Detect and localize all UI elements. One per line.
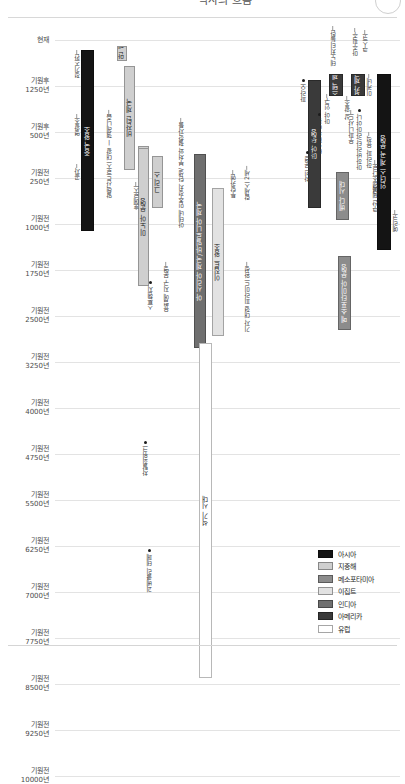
timeline-bar-label: 이집트 왕조 xyxy=(215,243,222,281)
event-annotation-label: 마추픽추 xyxy=(352,32,358,56)
timeline-bar[interactable]: 중국 왕조 xyxy=(81,50,94,231)
event-annotation-label: 람세스 2세 xyxy=(244,170,250,200)
event-dot-marker xyxy=(144,441,147,444)
timeline-bar[interactable]: 미노아 문명 xyxy=(138,148,149,286)
event-annotation-label: 차빈 문명 xyxy=(304,156,310,182)
event-annotation-label: 쿠스코 xyxy=(362,34,368,52)
timeline-bar[interactable]: 잉카 제국 xyxy=(351,74,365,96)
timeline-bar[interactable]: 비잔틴 제국 xyxy=(124,66,135,170)
gridline xyxy=(55,776,400,777)
legend-item[interactable]: 지중해 xyxy=(318,561,400,572)
legend-color-swatch xyxy=(318,612,333,620)
timeline-bar[interactable]: 오스만 제국 xyxy=(117,46,127,61)
circle-badge-icon xyxy=(375,0,401,14)
legend-color-swatch xyxy=(318,600,333,608)
y-axis-tick-label: 기원전6250년 xyxy=(0,537,49,554)
gridline xyxy=(55,684,400,685)
legend-color-swatch xyxy=(318,562,333,570)
y-axis-tick-label: 기원전7750년 xyxy=(0,629,49,646)
timeline-bar[interactable]: 아시리아 제국/바빌로니아 제국 xyxy=(194,154,206,348)
legend-item[interactable]: 이집트 xyxy=(318,586,400,597)
event-annotation-label: 투탕카멘 xyxy=(230,174,236,198)
event-dot-marker xyxy=(149,281,152,284)
legend-item-label: 인디아 xyxy=(338,599,356,609)
event-dot-marker xyxy=(318,113,321,116)
legend-color-swatch xyxy=(318,625,333,633)
timeline-bar-label: 아시리아 제국/바빌로니아 제국 xyxy=(197,201,204,300)
timeline-bar[interactable]: 그리스 xyxy=(152,156,163,208)
y-axis-tick-label: 기원전4750년 xyxy=(0,445,49,462)
gridline xyxy=(55,408,400,409)
legend-item-label: 이집트 xyxy=(338,586,356,596)
y-axis-tick-label: 기원전8500년 xyxy=(0,675,49,692)
y-axis-tick-label: 기원후1250년 xyxy=(0,77,49,94)
legend-item-label: 유럽 xyxy=(338,624,350,634)
event-annotation-label: 테오티우아칸 xyxy=(316,118,322,154)
gridline xyxy=(55,546,400,547)
legend-item-label: 메소포타미아 xyxy=(338,574,374,584)
event-annotation-label: 마야 인구 xyxy=(324,98,330,124)
gridline xyxy=(55,362,400,363)
timeline-bar-label: 비잔틴 제국 xyxy=(126,99,133,137)
timeline-bar[interactable]: 베다 시대 xyxy=(336,172,349,220)
chart-legend: 아시아지중해메소포타미아이집트인디아아메리카유럽 xyxy=(318,548,400,636)
event-annotation-label: 아테네 민주정치 탄생/ 부처와 철학자들 xyxy=(178,122,184,228)
y-axis-tick-label: 기원전7000년 xyxy=(0,583,49,600)
timeline-chart: 현재기원후1250년기원후500년기원전250년기원전1000년기원전1750년… xyxy=(0,18,405,663)
gridline xyxy=(55,86,400,87)
legend-item[interactable]: 유럽 xyxy=(318,623,400,634)
legend-item[interactable]: 메소포타미아 xyxy=(318,573,400,584)
timeline-bar-label: 그리스 xyxy=(154,171,161,192)
y-axis-tick-label: 기원전4000년 xyxy=(0,399,49,416)
y-axis-tick-label: 기원전3250년 xyxy=(0,353,49,370)
timeline-bar[interactable]: 이집트 왕조 xyxy=(212,188,224,336)
event-annotation-label: 마하바라타/라마야나 xyxy=(356,114,362,170)
event-annotation-label: 쿠샨 제국 xyxy=(372,186,378,212)
event-annotation-label: 명왕조 xyxy=(74,118,80,136)
timeline-bar-label: 오스만 제국 xyxy=(119,46,126,61)
timeline-bar-label: 메소포타미아 문명 xyxy=(341,264,348,323)
legend-item[interactable]: 아시아 xyxy=(318,548,400,559)
timeline-bar[interactable]: 인더스 계곡 문명 xyxy=(377,74,391,250)
gridline xyxy=(55,454,400,455)
timeline-bar-label: 석기 시대 xyxy=(202,495,209,526)
y-axis-tick-label: 현재 xyxy=(0,36,49,45)
legend-item[interactable]: 인디아 xyxy=(318,598,400,609)
event-annotation-label: 기자 대형 피라미드 완성 xyxy=(244,266,250,332)
legend-item-label: 지중해 xyxy=(338,561,356,571)
event-dot-marker xyxy=(302,79,305,82)
gridline xyxy=(55,730,400,731)
chart-baseline xyxy=(8,645,397,646)
timeline-bar[interactable]: 석기 시대 xyxy=(199,343,212,678)
timeline-bar-label: 인더스 계곡 문명 xyxy=(381,135,388,189)
y-axis-tick-label: 기원전1750년 xyxy=(0,261,49,278)
timeline-bar[interactable]: 메소포타미아 문명 xyxy=(338,256,351,330)
event-dot-marker xyxy=(306,151,309,154)
timeline-bar[interactable]: 아즈텍 제국 xyxy=(329,74,343,96)
legend-item[interactable]: 아메리카 xyxy=(318,611,400,622)
event-annotation-label: 괴베클리 테페 xyxy=(146,554,152,592)
y-axis-tick-label: 기원전5500년 xyxy=(0,491,49,508)
event-dot-marker xyxy=(148,549,151,552)
y-axis-tick-label: 기원전2500년 xyxy=(0,307,49,324)
timeline-bar-label: 중국 왕조 xyxy=(84,125,91,156)
event-annotation-label: 미케네 xyxy=(366,78,372,96)
event-annotation-label: 파라오 xyxy=(300,84,306,102)
y-axis-tick-label: 기원후500년 xyxy=(0,123,49,140)
event-annotation-label: 테노치티틀란 xyxy=(330,30,336,66)
page-title: 역사의 흐름 xyxy=(150,0,300,7)
gridline xyxy=(55,500,400,501)
event-annotation-label: 스톤헨지 xyxy=(147,286,153,310)
timeline-bar-label: 미노아 문명 xyxy=(140,198,147,236)
y-axis-tick-label: 기원전9250년 xyxy=(0,721,49,738)
y-axis-tick-label: 기원전1000년 xyxy=(0,215,49,232)
timeline-bar-label: 베다 시대 xyxy=(339,181,346,212)
legend-color-swatch xyxy=(318,575,333,583)
legend-color-swatch xyxy=(318,587,333,595)
gridline xyxy=(55,224,400,225)
event-annotation-label: 차탈회위크 xyxy=(142,446,148,476)
event-annotation-label: 공자 xyxy=(74,168,80,180)
event-annotation-label: 예리코 xyxy=(392,214,398,232)
timeline-bar-label: 아즈텍 제국 xyxy=(333,74,340,96)
timeline-bar-label: 잉카 제국 xyxy=(355,74,362,96)
